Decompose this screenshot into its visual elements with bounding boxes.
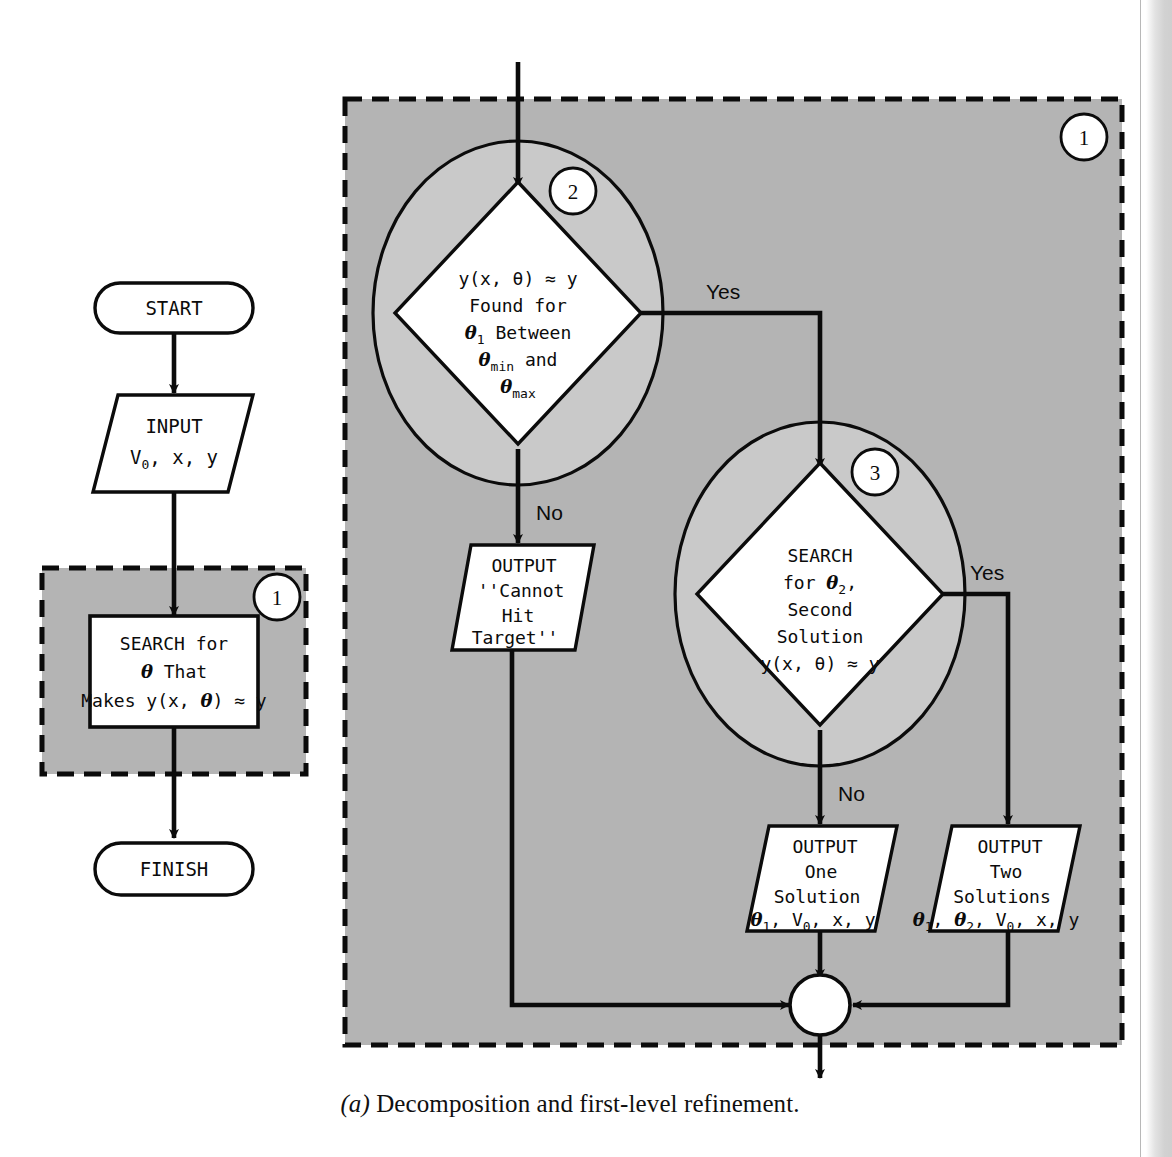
search-box-line3: Makes y(x, θ) ≈ y <box>81 690 267 711</box>
module-badge-1-right-label: 1 <box>1079 126 1090 150</box>
merge-junction-circle <box>790 975 850 1035</box>
decision-3-line1: SEARCH <box>787 545 852 566</box>
output-cannot-hit-target: OUTPUT ''Cannot Hit Target'' <box>452 545 594 650</box>
decision-3-yes-label: Yes <box>970 561 1004 584</box>
decision-2-yes-label: Yes <box>706 280 740 303</box>
input-parallelogram: INPUT V0, x, y <box>93 395 253 492</box>
output-one-solution: OUTPUT One Solution θ1, V0, x, y <box>747 826 897 934</box>
input-label-line1: INPUT <box>145 415 202 437</box>
figure-caption: (a) Decomposition and first-level refine… <box>0 1090 1140 1118</box>
caption-text: Decomposition and first-level refinement… <box>370 1090 800 1117</box>
flowchart-canvas: START INPUT V0, x, y 1 SEARCH for θ That… <box>0 0 1172 1157</box>
search-box-line2: θ That <box>141 661 207 682</box>
output-one-solution-line1: OUTPUT <box>792 836 857 857</box>
decision-2-line1: y(x, θ) ≈ y <box>458 268 577 289</box>
output-cannot-hit-line4: Target'' <box>472 627 559 648</box>
module-badge-3-label: 3 <box>870 461 881 485</box>
module-badge-2-label: 2 <box>568 180 579 204</box>
output-two-solutions-line1: OUTPUT <box>977 836 1042 857</box>
module-badge-1-left: 1 <box>254 574 300 620</box>
decision-3-no-label: No <box>838 782 865 805</box>
decision-3-line5: y(x, θ) ≈ y <box>760 653 879 674</box>
figure-page: START INPUT V0, x, y 1 SEARCH for θ That… <box>0 0 1172 1157</box>
caption-marker: (a) <box>340 1090 369 1117</box>
output-cannot-hit-line2: ''Cannot <box>478 580 565 601</box>
output-one-solution-line3: Solution <box>774 886 861 907</box>
start-terminal-label: START <box>145 297 202 319</box>
finish-terminal-label: FINISH <box>140 858 209 880</box>
output-one-solution-line2: One <box>805 861 838 882</box>
finish-terminal: FINISH <box>95 843 253 895</box>
module-badge-1-right: 1 <box>1061 114 1107 160</box>
output-cannot-hit-line3: Hit <box>502 605 535 626</box>
start-terminal: START <box>95 283 253 333</box>
module-badge-1-left-label: 1 <box>272 586 283 610</box>
decision-2-no-label: No <box>536 501 563 524</box>
module-badge-2: 2 <box>550 168 596 214</box>
output-two-solutions-line2: Two <box>990 861 1023 882</box>
search-process-box: SEARCH for θ That Makes y(x, θ) ≈ y <box>81 616 267 727</box>
decision-2-line2: Found for <box>469 295 567 316</box>
decision-3-line3: Second <box>787 599 852 620</box>
output-cannot-hit-line1: OUTPUT <box>491 555 556 576</box>
decision-3-line4: Solution <box>777 626 864 647</box>
search-box-line1: SEARCH for <box>120 633 229 654</box>
output-two-solutions-line3: Solutions <box>953 886 1051 907</box>
module-badge-3: 3 <box>852 449 898 495</box>
